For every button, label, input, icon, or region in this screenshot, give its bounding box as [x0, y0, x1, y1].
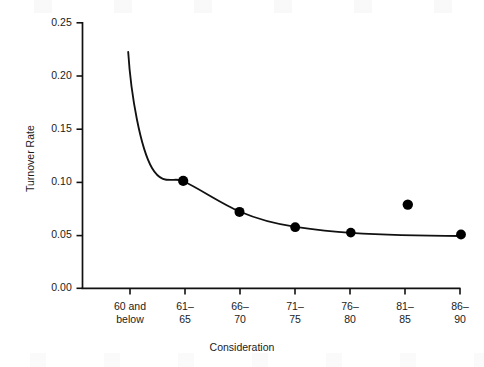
x-tick-label-86-90: 86– 90	[430, 300, 484, 325]
y-axis-title: Turnover Rate	[24, 125, 36, 192]
x-tick-label-61-65: 61– 65	[155, 300, 215, 325]
x-tick-label-71-75: 71– 75	[265, 300, 325, 325]
y-tick-label-0.05: 0.05	[34, 228, 72, 240]
y-tick-label-0.25: 0.25	[34, 16, 72, 28]
data-point-86-90	[456, 230, 466, 240]
y-tick-label-0.15: 0.15	[34, 122, 72, 134]
data-point-61-65	[178, 176, 188, 186]
x-tick-label-81-85: 81– 85	[375, 300, 435, 325]
x-tick-label-76-80: 76– 80	[320, 300, 380, 325]
y-axis-ticks	[77, 23, 83, 289]
x-tick-label-66-70: 66– 70	[210, 300, 270, 325]
data-point-71-75	[290, 222, 300, 232]
data-point-81-85	[403, 199, 413, 209]
chart-figure: 0.25 0.20 0.15 0.10 0.05 0.00 60 and bel…	[0, 0, 484, 367]
y-tick-label-0.20: 0.20	[34, 69, 72, 81]
y-tick-label-0.10: 0.10	[34, 175, 72, 187]
data-point-76-80	[346, 228, 356, 238]
data-point-66-70	[235, 207, 245, 217]
y-tick-label-0.00: 0.00	[34, 281, 72, 293]
x-axis-ticks	[130, 288, 460, 294]
x-axis-title: Consideration	[0, 341, 484, 353]
